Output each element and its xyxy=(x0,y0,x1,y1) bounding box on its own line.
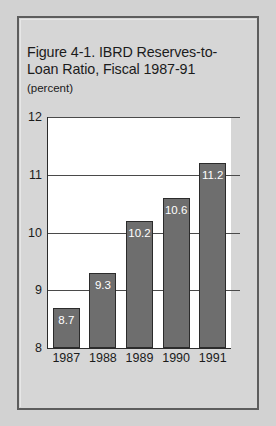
y-axis-label: 11 xyxy=(29,168,42,182)
bar-value-label: 8.7 xyxy=(54,314,79,326)
chart-subtitle: (percent) xyxy=(27,81,249,95)
x-axis-label-1987: 1987 xyxy=(52,351,80,365)
chart-title: Figure 4-1. IBRD Reserves-to- Loan Ratio… xyxy=(27,44,249,77)
figure-panel: Figure 4-1. IBRD Reserves-to- Loan Ratio… xyxy=(0,0,276,426)
bar-value-label: 11.2 xyxy=(200,169,225,181)
x-axis-label-1988: 1988 xyxy=(89,351,117,365)
bar-1991: 11.2 xyxy=(199,163,226,348)
y-tick-mark xyxy=(231,290,240,291)
plot-area: 891011128.719879.3198810.2198910.6199011… xyxy=(47,117,231,349)
y-axis-label: 10 xyxy=(28,226,42,240)
bar-1990: 10.6 xyxy=(163,198,190,348)
y-tick-mark xyxy=(231,233,240,234)
bar-value-label: 10.6 xyxy=(164,204,189,216)
bar-1988: 9.3 xyxy=(89,273,116,348)
y-axis-label: 9 xyxy=(35,283,42,297)
y-tick-mark xyxy=(231,117,240,118)
bar-1989: 10.2 xyxy=(126,221,153,348)
x-axis-label-1989: 1989 xyxy=(126,351,154,365)
title-block: Figure 4-1. IBRD Reserves-to- Loan Ratio… xyxy=(27,44,249,95)
y-axis-label: 8 xyxy=(35,341,42,355)
bar-value-label: 9.3 xyxy=(90,279,115,291)
x-axis-label-1991: 1991 xyxy=(199,351,227,365)
y-axis-label: 12 xyxy=(28,110,42,124)
bar-value-label: 10.2 xyxy=(127,227,152,239)
bar-1987: 8.7 xyxy=(53,308,80,348)
gridline xyxy=(48,117,231,118)
y-tick-mark xyxy=(231,175,240,176)
x-axis-label-1990: 1990 xyxy=(162,351,190,365)
